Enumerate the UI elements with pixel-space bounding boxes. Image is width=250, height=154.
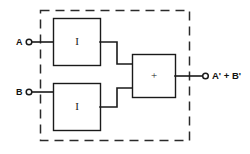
wire-inverter-top-to-or: [100, 42, 132, 64]
input-label-b: B: [16, 87, 23, 97]
terminal-output[interactable]: [203, 73, 209, 79]
input-label-a: A: [16, 37, 23, 47]
terminal-input-a[interactable]: [26, 39, 32, 45]
gate-glyph-inverter-top: I: [75, 35, 79, 47]
gate-glyph-or: +: [151, 69, 157, 81]
circuit-diagram-svg: A B I I + A' + B': [0, 0, 250, 154]
wire-inverter-bottom-to-or: [100, 88, 132, 107]
logic-circuit-figure: A B I I + A' + B': [0, 0, 250, 154]
output-label: A' + B': [212, 70, 241, 81]
terminal-input-b[interactable]: [26, 89, 32, 95]
gate-glyph-inverter-bottom: I: [75, 100, 79, 112]
